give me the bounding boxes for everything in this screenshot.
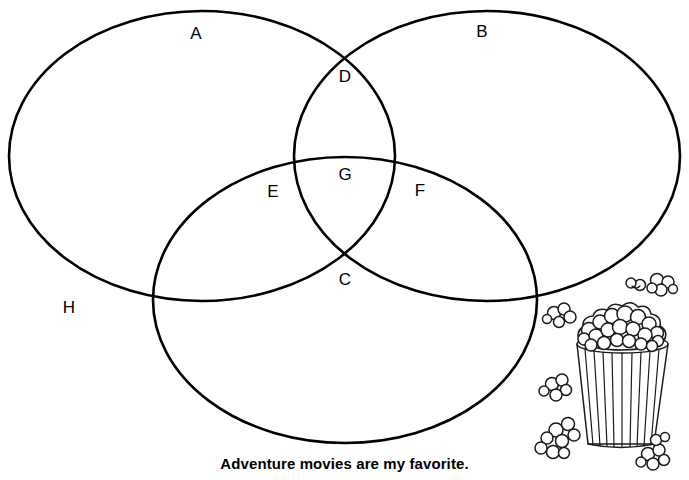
popcorn-loose-top-right [626,274,678,297]
popcorn-loose-left-middle [539,374,572,401]
venn-label-c: C [339,271,351,288]
popcorn-loose-bottom-left [535,418,580,459]
venn-label-g: G [338,166,351,183]
venn-label-d: D [339,68,351,85]
venn-label-f: F [415,182,425,199]
popcorn-bucket-illustration [528,272,689,472]
venn-label-a: A [190,25,201,42]
worksheet-page: A B D G E F C H [0,0,689,480]
venn-label-h: H [63,299,75,316]
popcorn-loose-under-bucket [651,433,670,446]
popcorn-mound [578,303,666,352]
venn-label-e: E [267,183,278,200]
popcorn-loose-left-upper [543,303,577,328]
venn-label-b: B [476,23,487,40]
caption-text: Adventure movies are my favorite. [0,455,689,472]
